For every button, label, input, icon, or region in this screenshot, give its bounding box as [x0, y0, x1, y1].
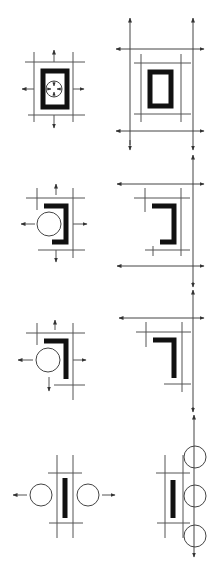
row-2-left-panel: [21, 184, 87, 262]
expansion-diagram: [0, 0, 219, 576]
row-1-left-panel: [22, 50, 85, 128]
corner-l-shape: [153, 340, 174, 378]
circle: [37, 212, 61, 236]
row-4-left-panel: [13, 455, 115, 538]
circle-top: [184, 446, 206, 468]
row-2-right-panel: [117, 155, 204, 285]
row-3-left-panel: [18, 320, 86, 400]
row-3-right-panel: [119, 290, 204, 410]
row-4-right-panel: [156, 415, 206, 557]
row-1-right-panel: [116, 18, 204, 145]
circle-middle: [184, 485, 206, 507]
circle-right: [77, 484, 99, 506]
circle-bottom: [184, 525, 206, 547]
closed-rectangle-shape: [150, 72, 171, 106]
circle-left: [30, 484, 52, 506]
circle: [36, 348, 60, 372]
bracket-shape: [152, 206, 174, 242]
